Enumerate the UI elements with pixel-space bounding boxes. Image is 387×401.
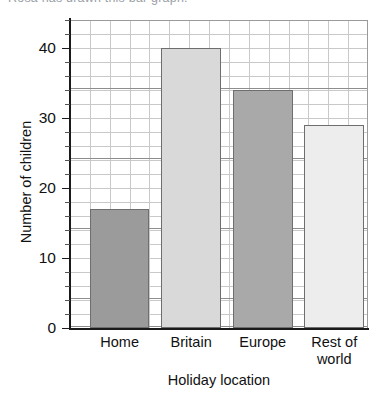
y-minor-tick-32 [65,104,70,105]
x-label-rest-of-world: Rest of world [292,334,376,367]
y-minor-tick-16 [65,216,70,217]
y-minor-tick-4 [65,300,70,301]
y-tick-label-40: 40 [28,40,56,56]
y-tick-mark-0 [62,328,70,329]
y-minor-tick-12 [65,244,70,245]
y-minor-tick-26 [65,146,70,147]
y-tick-mark-10 [62,258,70,259]
bar-chart-figure: 010203040 Number of children HomeBritain… [0,0,387,401]
bar-europe [233,90,293,328]
x-axis-title: Holiday location [70,372,368,388]
y-minor-tick-2 [65,314,70,315]
y-minor-tick-38 [65,62,70,63]
y-minor-tick-22 [65,174,70,175]
y-minor-tick-44 [65,20,70,21]
bar-britain [161,48,221,328]
bar-home [90,209,150,328]
bar-rest-of-world [304,125,364,328]
x-axis-category-labels: HomeBritainEuropeRest of world [70,334,368,374]
y-minor-tick-8 [65,272,70,273]
y-minor-tick-6 [65,286,70,287]
y-minor-tick-14 [65,230,70,231]
plot-border-right [367,20,368,328]
y-minor-tick-24 [65,160,70,161]
y-minor-tick-34 [65,90,70,91]
y-tick-label-0: 0 [28,320,56,336]
y-minor-tick-18 [65,202,70,203]
y-tick-mark-30 [62,118,70,119]
y-minor-tick-42 [65,34,70,35]
y-minor-tick-28 [65,132,70,133]
y-minor-tick-36 [65,76,70,77]
y-tick-mark-20 [62,188,70,189]
y-axis-title: Number of children [18,72,34,292]
y-tick-mark-40 [62,48,70,49]
plot-area [70,20,368,328]
x-axis-line [69,328,369,330]
plot-border-top [70,20,368,21]
